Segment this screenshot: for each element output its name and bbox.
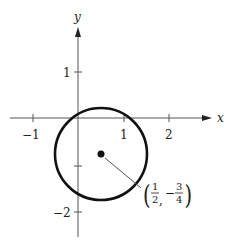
circle-diagram: x y −1 1 2 1 −2 ( 1 2 , − 3 4 ) [0, 0, 235, 252]
x-axis-arrow-icon [202, 115, 212, 121]
center-point [98, 151, 105, 158]
y-tick-label-1: 1 [63, 66, 71, 80]
label-right-paren: ) [185, 180, 193, 209]
y-axis-arrow-icon [75, 27, 81, 37]
label-minus-sign: − [165, 186, 175, 200]
label-x-denominator: 2 [152, 194, 158, 205]
y-tick-label-neg2: −2 [53, 206, 71, 220]
center-point-label: ( 1 2 , − 3 4 ) [143, 180, 192, 209]
label-separator: , [159, 193, 163, 207]
center-pointer-line [105, 158, 141, 188]
x-tick-label-neg1: −1 [22, 128, 40, 142]
label-y-numerator: 3 [176, 181, 182, 192]
x-axis-label: x [217, 111, 224, 125]
label-y-denominator: 4 [176, 194, 182, 205]
label-x-numerator: 1 [152, 181, 158, 192]
x-tick-label-2: 2 [165, 128, 173, 142]
x-tick-label-1: 1 [120, 128, 128, 142]
label-left-paren: ( [143, 180, 151, 209]
y-axis-label: y [73, 10, 81, 24]
